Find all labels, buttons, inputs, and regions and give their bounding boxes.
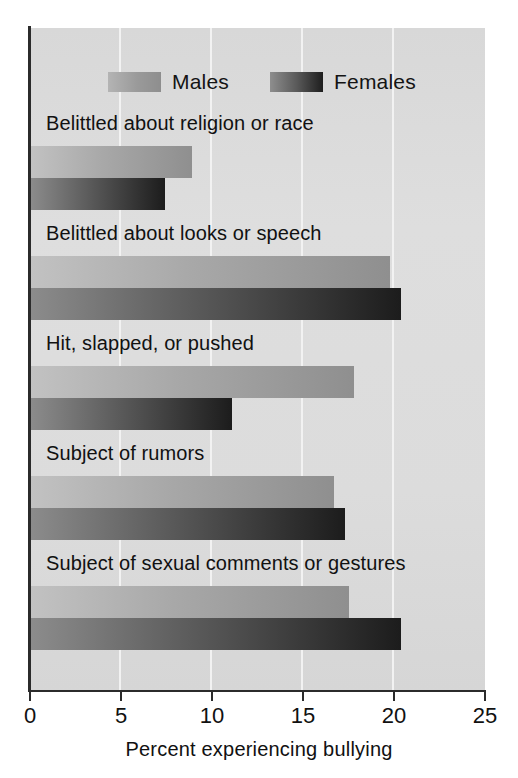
plot-area: Males Females Belittled about religion o… xyxy=(30,28,485,690)
females-swatch-icon xyxy=(270,72,323,92)
legend-entry-males: Males xyxy=(108,58,229,106)
bar-females-4 xyxy=(30,618,401,650)
category-label-2: Hit, slapped, or pushed xyxy=(46,332,254,355)
y-axis-line xyxy=(28,26,31,692)
x-axis-line xyxy=(28,690,486,692)
tick-mark-25 xyxy=(484,690,486,701)
category-label-0: Belittled about religion or race xyxy=(46,112,314,135)
tick-label-5: 5 xyxy=(115,703,127,729)
bullying-bar-chart-figure: Males Females Belittled about religion o… xyxy=(0,0,518,778)
bar-males-1 xyxy=(30,256,390,288)
bar-males-0 xyxy=(30,146,192,178)
bar-group-subject-of-rumors: Subject of rumors xyxy=(30,442,485,552)
bar-males-2 xyxy=(30,366,354,398)
tick-label-0: 0 xyxy=(24,703,36,729)
bar-females-3 xyxy=(30,508,345,540)
bar-group-looks-or-speech: Belittled about looks or speech xyxy=(30,222,485,332)
tick-mark-10 xyxy=(211,690,213,701)
bar-females-2 xyxy=(30,398,232,430)
bar-females-0 xyxy=(30,178,165,210)
bar-group-hit-slapped-pushed: Hit, slapped, or pushed xyxy=(30,332,485,442)
tick-label-10: 10 xyxy=(200,703,224,729)
males-swatch-icon xyxy=(108,72,161,92)
bar-group-sexual-comments-or-gestures: Subject of sexual comments or gestures xyxy=(30,552,485,662)
legend-label-females: Females xyxy=(334,70,416,94)
tick-label-15: 15 xyxy=(291,703,315,729)
bar-males-4 xyxy=(30,586,349,618)
legend-entry-females: Females xyxy=(270,58,416,106)
x-axis-title: Percent experiencing bullying xyxy=(0,738,518,761)
legend-label-males: Males xyxy=(172,70,229,94)
tick-mark-20 xyxy=(393,690,395,701)
legend: Males Females xyxy=(30,58,485,106)
tick-label-20: 20 xyxy=(382,703,406,729)
bar-males-3 xyxy=(30,476,334,508)
bar-group-religion-or-race: Belittled about religion or race xyxy=(30,112,485,222)
tick-mark-15 xyxy=(302,690,304,701)
bar-females-1 xyxy=(30,288,401,320)
tick-label-25: 25 xyxy=(473,703,497,729)
tick-mark-0 xyxy=(29,690,31,701)
tick-mark-5 xyxy=(120,690,122,701)
category-label-3: Subject of rumors xyxy=(46,442,204,465)
category-label-4: Subject of sexual comments or gestures xyxy=(46,552,406,575)
category-label-1: Belittled about looks or speech xyxy=(46,222,322,245)
